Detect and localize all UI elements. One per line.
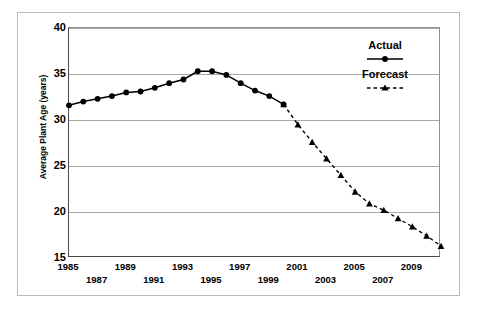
data-point-circle [166, 80, 172, 86]
data-point-circle [238, 80, 244, 86]
data-point-circle [138, 89, 144, 95]
legend-sample-forecast [353, 82, 417, 94]
legend-label-actual: Actual [330, 40, 440, 51]
data-point-triangle [366, 200, 373, 206]
data-point-triangle [380, 207, 387, 213]
x-tick-label: 1989 [105, 262, 145, 272]
data-point-circle [223, 72, 229, 78]
legend-label-forecast: Forecast [330, 69, 440, 80]
data-point-circle [209, 68, 215, 74]
data-point-circle [123, 90, 129, 96]
x-tick-label: 1997 [220, 262, 260, 272]
x-tick-label: 2003 [306, 275, 346, 285]
x-tick-label: 2007 [363, 275, 403, 285]
legend-sample-actual [353, 53, 417, 65]
x-tick-label: 2009 [391, 262, 431, 272]
y-tick-label: 20 [40, 206, 66, 217]
x-tick-label: 1985 [48, 262, 88, 272]
y-tick-label: 40 [40, 22, 66, 33]
data-point-circle [181, 77, 187, 83]
series-line-actual [69, 71, 284, 105]
y-tick-label: 35 [40, 68, 66, 79]
data-point-triangle [395, 215, 402, 221]
data-point-circle [252, 88, 258, 94]
x-tick-label: 1995 [191, 275, 231, 285]
x-tick-label: 1999 [248, 275, 288, 285]
x-tick-label: 2005 [334, 262, 374, 272]
data-point-circle [66, 102, 72, 108]
x-tick-label: 1987 [77, 275, 117, 285]
y-tick-label: 30 [40, 114, 66, 125]
data-point-circle [80, 99, 86, 105]
data-point-circle [266, 93, 272, 99]
chart-container: Average Plant Age (years) 152025303540 1… [0, 0, 479, 310]
data-point-circle [95, 96, 101, 102]
data-point-circle [152, 85, 158, 91]
data-point-triangle [423, 233, 430, 239]
data-point-circle [195, 68, 201, 74]
x-tick-label: 2001 [277, 262, 317, 272]
y-tick-label: 25 [40, 160, 66, 171]
data-point-triangle [409, 223, 416, 229]
x-tick-label: 1993 [162, 262, 202, 272]
x-tick-label: 1991 [134, 275, 174, 285]
data-point-triangle [309, 139, 316, 145]
data-point-triangle [352, 188, 359, 194]
series-line-forecast [284, 104, 441, 246]
data-point-circle [109, 93, 115, 99]
